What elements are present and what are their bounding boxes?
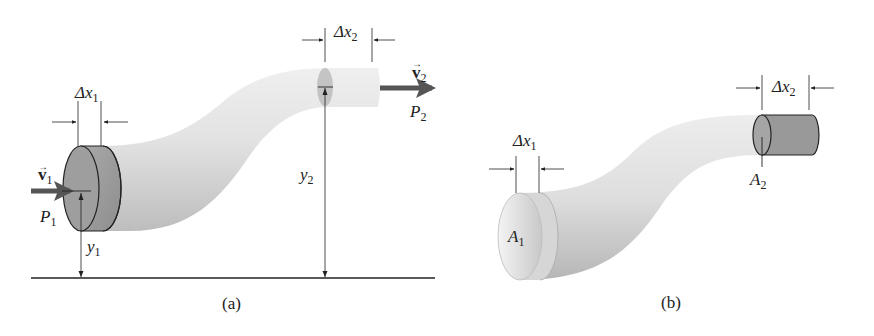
caption-b: (b) (661, 293, 681, 312)
label-p1: P1 (39, 207, 56, 229)
label-dx2-b: Δx2 (771, 77, 796, 99)
label-dx1-b: Δx1 (512, 131, 537, 153)
caption-a: (a) (222, 294, 241, 313)
bernoulli-pipe-figure: Δx1 v1 → P1 y1 Δx2 v2 → P2 y2 (a) (0, 0, 874, 336)
label-y1: y1 (85, 237, 101, 259)
label-dx2-a: Δx2 (333, 22, 358, 44)
panel-a: Δx1 v1 → P1 y1 Δx2 v2 → P2 y2 (a) (31, 22, 435, 313)
label-p2: P2 (409, 102, 426, 124)
label-dx1-a: Δx1 (74, 83, 99, 105)
vector-arrow-v1: → (38, 161, 48, 172)
panel-b: Δx1 Δx2 A2 A1 (b) (489, 75, 834, 312)
label-y2: y2 (298, 165, 314, 187)
label-a2: A2 (749, 170, 766, 192)
vector-arrow-v2: → (412, 58, 422, 69)
pipe-body-a (100, 68, 380, 231)
